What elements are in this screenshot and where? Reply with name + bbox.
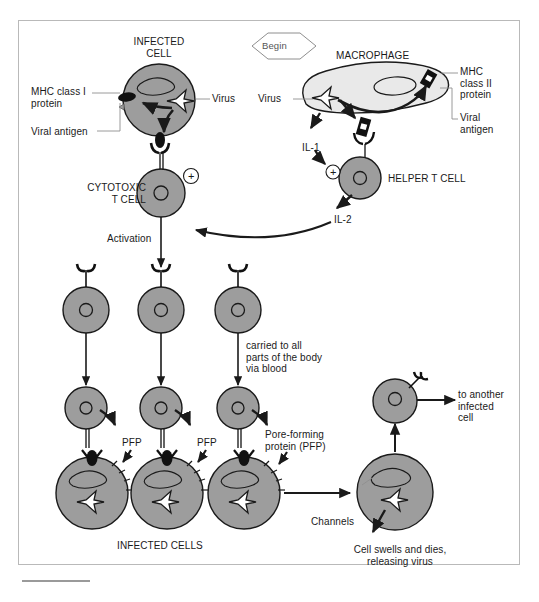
label-channels: Channels <box>311 516 354 528</box>
attacking-t-cell-2 <box>140 387 190 448</box>
released-t-cell <box>373 372 455 423</box>
label-pfp-2: PFP <box>197 437 217 449</box>
clone-t-cell-1 <box>63 264 109 385</box>
footer-rule <box>22 580 90 582</box>
label-helper-t-cell: HELPER T CELL <box>388 173 466 185</box>
label-il1: IL-1 <box>302 142 320 154</box>
macrophage <box>303 62 449 165</box>
label-to-another-infected-cell: to another infected cell <box>458 389 504 424</box>
cytotoxic-t-cell <box>137 169 199 268</box>
label-mhc-class-i: MHC class I protein <box>31 86 86 109</box>
label-begin-marker: Begin <box>262 40 287 52</box>
target-infected-cell-3 <box>208 450 285 529</box>
label-viral-antigen-right: Viral antigen <box>460 112 494 135</box>
plus-sign-cytotoxic: + <box>188 171 195 183</box>
label-pfp-1: PFP <box>122 437 142 449</box>
label-virus-right: Virus <box>258 93 281 105</box>
attacking-t-cell-1 <box>65 387 115 448</box>
label-il2: IL-2 <box>334 214 352 226</box>
plus-sign-helper: + <box>330 167 337 179</box>
label-infected-cells: INFECTED CELLS <box>117 540 203 552</box>
label-mhc-class-ii: MHC class II protein <box>460 66 492 101</box>
clone-t-cell-2 <box>138 264 184 385</box>
target-infected-cell-2 <box>131 450 208 529</box>
il2-curve <box>196 222 331 237</box>
infected-cell-top <box>117 64 195 172</box>
helper-t-cell <box>326 157 381 208</box>
target-infected-cell-1 <box>56 450 133 529</box>
label-carried-via-blood: carried to all parts of the body via blo… <box>246 340 322 375</box>
label-infected-cell: INFECTED CELL <box>120 36 198 59</box>
label-activation: Activation <box>107 233 151 245</box>
leader-lines-left <box>92 93 120 131</box>
label-virus-left: Virus <box>212 93 235 105</box>
dying-cell <box>357 424 433 532</box>
attacking-t-cell-3 <box>217 387 267 448</box>
label-cell-swells: Cell swells and dies, releasing virus <box>330 544 470 567</box>
label-viral-antigen-left: Viral antigen <box>31 126 88 138</box>
label-macrophage: MACROPHAGE <box>336 50 409 62</box>
label-cytotoxic-t-cell: CYTOTOXIC T CELL <box>84 182 146 205</box>
label-pore-forming-protein: Pore-forming protein (PFP) <box>265 429 326 452</box>
diagram-canvas: INFECTED CELL MHC class I protein Viral … <box>0 0 539 602</box>
